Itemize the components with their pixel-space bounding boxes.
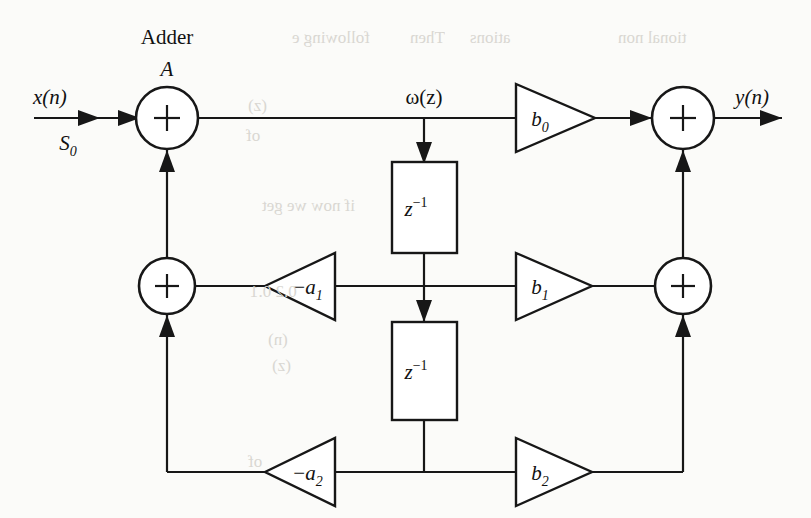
label-input-signal: x(n) xyxy=(32,85,67,109)
label-gain-a1-sub: 1 xyxy=(316,288,323,303)
arrowhead-into-adder-fb-mid-bottom xyxy=(159,315,175,337)
label-delay-2-base: z xyxy=(403,360,412,384)
filter-diagram: Adder A x(n) S0 ω(z) y(n) z−1 z−1 b0 b1 xyxy=(0,0,811,518)
label-gain-a2-base: a xyxy=(305,461,316,485)
gain-triangle-b1 xyxy=(516,253,592,320)
label-gain-b2-base: b xyxy=(531,461,542,485)
label-delay-1-exponent: −1 xyxy=(413,195,428,210)
label-delay-2-exponent: −1 xyxy=(413,358,428,373)
label-gain-b2-sub: 2 xyxy=(542,474,549,489)
gain-triangle-b0 xyxy=(516,84,595,152)
arrowhead-output xyxy=(760,110,782,126)
label-input-state-base: S xyxy=(59,131,70,155)
label-input-state-sub: 0 xyxy=(70,144,77,159)
label-gain-a1-sign: − xyxy=(293,275,305,299)
label-delay-1-base: z xyxy=(403,197,412,221)
label-gain-b1-base: b xyxy=(531,275,542,299)
arrowhead-into-delay1 xyxy=(416,142,432,164)
label-adder-title: Adder xyxy=(141,25,193,49)
arrowhead-into-delay2 xyxy=(416,300,432,322)
label-gain-a2-sub: 2 xyxy=(316,474,323,489)
gain-triangle-b2 xyxy=(516,438,592,506)
label-output-signal: y(n) xyxy=(733,85,769,109)
diagram-canvas: Adder A x(n) S0 ω(z) y(n) z−1 z−1 b0 b1 xyxy=(0,0,811,518)
arrowhead-into-adder-out-mid xyxy=(675,315,691,337)
label-adder-name: A xyxy=(159,57,174,81)
arrowhead-input-mid xyxy=(78,110,100,126)
label-gain-b0-base: b xyxy=(531,107,542,131)
arrowhead-into-adderA-bottom xyxy=(159,150,175,172)
label-intermediate-signal: ω(z) xyxy=(405,85,442,109)
arrowhead-b0-into-adder xyxy=(630,110,652,126)
arrowhead-into-adder-out-top xyxy=(675,150,691,172)
label-gain-b1-sub: 1 xyxy=(542,288,549,303)
label-gain-b0-sub: 0 xyxy=(542,120,549,135)
label-gain-a2-sign: − xyxy=(293,461,305,485)
label-gain-a1-base: a xyxy=(305,275,316,299)
label-input-state: S0 xyxy=(59,131,77,159)
